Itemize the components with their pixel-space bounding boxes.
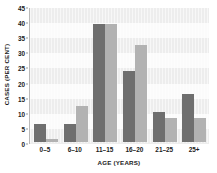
x-axis-tick-label: 25+ [179,146,209,153]
y-axis-tick-labels: 051015202530354045 [13,8,27,144]
bar [93,24,105,142]
bar-group [179,8,209,142]
x-axis-tick-label: 0–5 [30,146,60,153]
y-axis-tick-mark [26,23,28,24]
y-axis-tick-mark [26,68,28,69]
bar-group [150,8,180,142]
y-axis-tick-mark [26,8,28,9]
bar [76,106,88,142]
bar-group [90,8,120,142]
x-axis-tick-label: 16–20 [119,146,149,153]
y-axis-tick-label: 10 [18,110,25,117]
y-axis-tick-mark [26,98,28,99]
bar [135,45,147,142]
y-axis-tick-label: 35 [18,35,25,42]
y-axis-tick-label: 20 [18,80,25,87]
x-axis-tick-labels: 0–56–1011–1516–2021–2525+ [30,146,209,153]
y-axis-tick-mark [26,53,28,54]
plot-area [29,8,209,144]
bar-group [61,8,91,142]
x-axis-tick-label: 11–15 [90,146,120,153]
y-axis-tick-label: 30 [18,50,25,57]
y-axis-title: CASES (PER CENT) [0,0,14,148]
bar [34,124,46,142]
y-axis-tick-label: 40 [18,20,25,27]
bar-chart: CASES (PER CENT) 051015202530354045 0–56… [0,0,217,173]
bar [165,118,177,142]
bar [182,94,194,142]
y-axis-tick-label: 0 [21,141,25,148]
y-axis-tick-mark [26,128,28,129]
y-axis-tick-mark [26,144,28,145]
bar [194,118,206,142]
y-axis-tick-label: 5 [21,125,25,132]
y-axis-title-text: CASES (PER CENT) [4,43,11,105]
bar-group [31,8,61,142]
bar [46,139,58,142]
y-axis-tick-mark [26,38,28,39]
x-axis-title: AGE (YEARS) [29,159,209,166]
bar [105,24,117,142]
bar-groups [31,8,209,142]
y-axis-tick-mark [26,83,28,84]
bar [153,112,165,142]
y-axis-tick-mark [26,113,28,114]
x-axis-tick-label: 21–25 [149,146,179,153]
bar-group [120,8,150,142]
y-axis-tick-label: 25 [18,65,25,72]
bar [64,124,76,142]
bar [123,71,135,142]
y-axis-tick-label: 15 [18,95,25,102]
y-axis-tick-label: 45 [18,5,25,12]
x-axis-tick-label: 6–10 [60,146,90,153]
